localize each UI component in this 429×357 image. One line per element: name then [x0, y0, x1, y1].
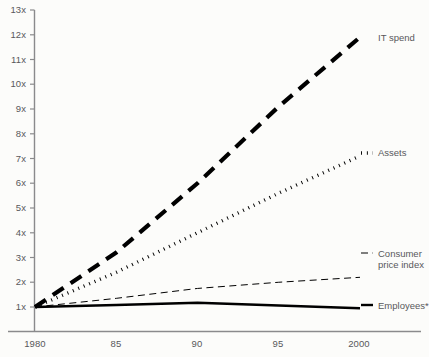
chart-container: 13x 12x 11x 10x 9x 8x 7x 6x 5x 4x 3x 2x …: [0, 0, 429, 357]
y-tick-label: 6x: [0, 177, 26, 188]
y-tick-label: 13x: [0, 4, 26, 15]
legend-label-it-spend: IT spend: [378, 32, 415, 43]
y-tick-label: 5x: [0, 202, 26, 213]
legend-label-consumer-line2: price index: [378, 259, 424, 270]
y-tick-label: 12x: [0, 29, 26, 40]
chart-plot-area: [0, 0, 429, 357]
y-tick-label: 10x: [0, 78, 26, 89]
y-tick-label: 11x: [0, 54, 26, 65]
legend-label-employees: Employees*: [378, 300, 429, 311]
legend-label-assets: Assets: [378, 147, 407, 158]
y-tick-label: 3x: [0, 252, 26, 263]
x-tick-label: 2000: [339, 338, 379, 349]
y-tick-label: 2x: [0, 276, 26, 287]
x-tick-label: 95: [258, 338, 298, 349]
y-tick-label: 9x: [0, 103, 26, 114]
x-tick-label: 90: [177, 338, 217, 349]
x-tick-label: 85: [96, 338, 136, 349]
legend-label-consumer-line1: Consumer: [378, 248, 424, 259]
y-tick-label: 1x: [0, 301, 26, 312]
y-tick-label: 7x: [0, 153, 26, 164]
legend-label-consumer-price-index: Consumer price index: [378, 248, 424, 270]
y-tick-label: 8x: [0, 128, 26, 139]
y-tick-label: 4x: [0, 227, 26, 238]
x-tick-label: 1980: [15, 338, 55, 349]
